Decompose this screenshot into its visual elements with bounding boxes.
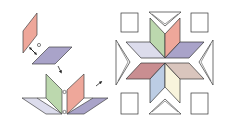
diagram-canvas — [0, 0, 227, 126]
step-arrow-right — [96, 82, 101, 86]
purple-diamond-flat — [32, 47, 72, 64]
step-1-group — [23, 13, 72, 64]
corner-square-top-right — [191, 13, 208, 32]
step-2-group — [22, 74, 108, 114]
star-block — [116, 12, 213, 114]
corner-square-bottom-right — [191, 93, 208, 114]
pink-diamond-vertical — [23, 13, 37, 53]
quilt-assembly-diagram — [0, 0, 227, 126]
seam-dot — [37, 43, 40, 46]
corner-square-top-left — [121, 13, 138, 32]
corner-square-bottom-left — [121, 93, 138, 114]
seam-dot-top — [63, 90, 66, 93]
seam-dot-bottom — [63, 110, 66, 113]
step-arrow-down — [58, 66, 61, 72]
